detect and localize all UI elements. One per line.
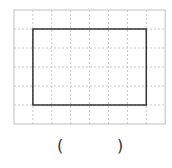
answer-close-paren: ) [117, 138, 123, 154]
grid-diagram [0, 0, 172, 130]
answer-open-paren: ( [57, 138, 63, 154]
